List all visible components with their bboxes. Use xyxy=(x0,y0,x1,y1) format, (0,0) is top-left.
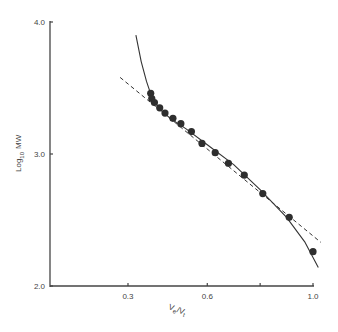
x-tick-label: 1.0 xyxy=(307,292,319,301)
y-tick-label: 3.0 xyxy=(34,150,46,159)
chart: 2.03.04.0 0.30.61.0 Log10MW Ve/Vt xyxy=(0,0,338,332)
x-axis-label: Ve/Vt xyxy=(167,302,188,318)
data-point xyxy=(188,128,195,135)
data-point xyxy=(169,115,176,122)
y-tick-label: 4.0 xyxy=(34,18,46,27)
axes xyxy=(50,21,314,287)
data-point xyxy=(259,190,266,197)
data-point xyxy=(151,99,158,106)
data-point xyxy=(286,214,293,221)
data-point xyxy=(212,149,219,156)
x-tick-label: 0.6 xyxy=(202,292,214,301)
y-tick-label: 2.0 xyxy=(34,282,46,291)
data-point xyxy=(309,248,316,255)
data-point xyxy=(177,120,184,127)
data-point xyxy=(198,140,205,147)
data-point xyxy=(156,104,163,111)
data-point xyxy=(241,172,248,179)
x-tick-label: 0.3 xyxy=(122,292,134,301)
solid-fit-curve xyxy=(136,35,318,267)
data-point xyxy=(161,109,168,116)
data-point xyxy=(225,160,232,167)
plot-area xyxy=(120,35,321,267)
y-axis-label: Log10MW xyxy=(14,134,25,172)
